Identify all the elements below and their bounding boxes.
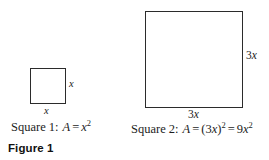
square-2-area-variable: A xyxy=(183,122,191,136)
square-2-exponent-first: 2 xyxy=(221,120,225,130)
square-2-caption: Square 2:A=(3x)2=9x2 xyxy=(131,123,253,136)
square-2-shape xyxy=(145,11,243,108)
figure-number-label: Figure 1 xyxy=(8,143,54,155)
square-1-right-side-label: x xyxy=(69,79,74,90)
square-1-caption: Square 1:A=x2 xyxy=(11,121,91,134)
square-2-equals-sign-first: = xyxy=(192,122,199,136)
square-2-right-side-label: 3x xyxy=(246,50,257,62)
square-2-equals-sign-second: = xyxy=(228,122,235,136)
square-2-area-expression: A=(3x)2=9x2 xyxy=(183,122,253,136)
square-2-right-side-variable: x xyxy=(252,49,257,61)
figure-container: x x 3x 3x Square 1:A=x2 Square 2:A=(3x)2… xyxy=(0,0,269,160)
square-2-bottom-side-label: 3x xyxy=(188,109,199,121)
square-1-caption-lead: Square 1: xyxy=(11,120,59,134)
square-1-shape xyxy=(30,68,66,104)
square-1-area-exponent: 2 xyxy=(87,118,91,128)
square-2-exponent-second: 2 xyxy=(249,120,253,130)
square-2-caption-lead: Square 2: xyxy=(131,122,179,136)
square-1-bottom-side-label: x xyxy=(44,106,49,117)
square-1-area-variable: A xyxy=(63,120,71,134)
square-1-area-expression: A=x2 xyxy=(63,120,92,134)
square-1-equals-sign: = xyxy=(72,120,79,134)
square-2-bottom-side-variable: x xyxy=(194,108,199,120)
